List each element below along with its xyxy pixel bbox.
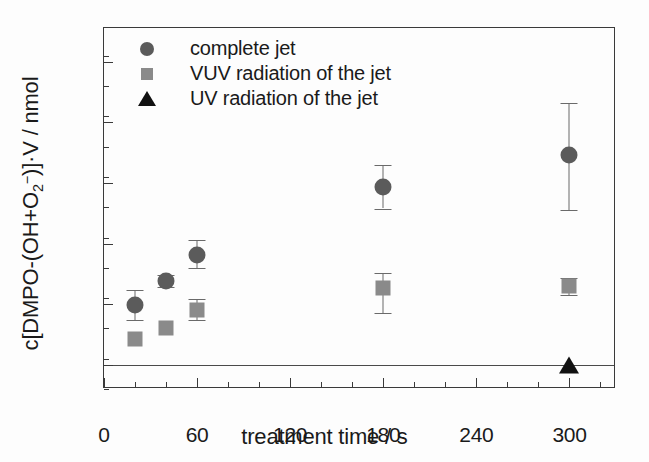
x-axis-minor-tick <box>135 382 136 387</box>
x-axis-tick-label: 300 <box>529 424 609 445</box>
error-bar-cap <box>189 240 206 241</box>
triangle-marker-icon <box>559 356 579 373</box>
error-bar-cap <box>127 290 144 291</box>
circle-marker-icon <box>158 273 175 290</box>
x-axis-minor-tick <box>166 382 167 387</box>
circle-marker-icon <box>130 42 164 56</box>
x-axis-minor-tick <box>507 382 508 387</box>
error-bar-cap <box>127 320 144 321</box>
y-axis-minor-tick <box>104 177 109 178</box>
data-point <box>189 246 206 263</box>
x-axis-tick-label: 0 <box>64 424 144 445</box>
y-axis-tick <box>104 62 113 63</box>
data-point <box>128 332 143 347</box>
y-axis-title-suffix: )]·V / nmol <box>18 77 43 176</box>
y-axis-minor-tick <box>104 389 109 390</box>
x-axis-tick <box>383 378 384 387</box>
legend-item-vuv: VUV radiation of the jet <box>130 61 460 86</box>
square-marker-icon <box>562 279 577 294</box>
y-axis-minor-tick <box>104 359 109 360</box>
error-bar-cap <box>561 210 578 211</box>
zero-reference-line <box>104 365 614 366</box>
y-axis-tick <box>104 304 113 305</box>
y-axis-tick <box>104 183 113 184</box>
data-point <box>559 356 579 373</box>
y-axis-minor-tick <box>104 86 109 87</box>
error-bar-cap <box>189 320 206 321</box>
legend-item-uv: UV radiation of the jet <box>130 86 460 111</box>
y-axis-minor-tick <box>104 56 109 57</box>
x-axis-minor-tick <box>414 382 415 387</box>
plot-frame: 0510152025060120180240300 complete jet V… <box>103 27 615 388</box>
data-point <box>376 281 391 296</box>
data-point <box>190 303 205 318</box>
y-axis-minor-tick <box>104 298 109 299</box>
y-axis-tick <box>104 244 113 245</box>
data-point <box>158 273 175 290</box>
y-axis-minor-tick <box>104 207 109 208</box>
chart-legend: complete jet VUV radiation of the jet UV… <box>130 36 460 111</box>
y-axis-tick <box>104 122 113 123</box>
triangle-marker-icon <box>130 91 164 106</box>
error-bar-cap <box>375 165 392 166</box>
error-bar-cap <box>561 103 578 104</box>
error-bar-cap <box>375 209 392 210</box>
legend-item-complete-jet: complete jet <box>130 36 460 61</box>
circle-marker-icon <box>375 178 392 195</box>
error-bar-cap <box>375 273 392 274</box>
x-axis-minor-tick <box>352 382 353 387</box>
circle-marker-icon <box>189 246 206 263</box>
x-axis-tick-label: 60 <box>157 424 237 445</box>
y-axis-title-subscript: 2 <box>30 184 46 192</box>
y-axis-minor-tick <box>104 116 109 117</box>
y-axis-minor-tick <box>104 268 109 269</box>
y-axis-tick <box>104 365 113 366</box>
square-marker-icon <box>159 321 174 336</box>
square-marker-icon <box>128 332 143 347</box>
x-axis-tick <box>569 378 570 387</box>
legend-label-complete-jet: complete jet <box>190 37 295 60</box>
y-axis-title-superscript: − <box>19 176 35 184</box>
data-point <box>562 279 577 294</box>
y-axis-minor-tick <box>104 328 109 329</box>
x-axis-minor-tick <box>445 382 446 387</box>
data-point <box>561 147 578 164</box>
x-axis-minor-tick <box>321 382 322 387</box>
x-axis-minor-tick <box>538 382 539 387</box>
error-bar-cap <box>189 299 206 300</box>
x-axis-tick-label: 120 <box>250 424 330 445</box>
data-point <box>127 297 144 314</box>
chart-figure: c[DMPO-(OH+O2−)]·V / nmol treatment time… <box>0 0 649 462</box>
square-marker-icon <box>190 303 205 318</box>
x-axis-tick <box>104 378 105 387</box>
legend-label-vuv: VUV radiation of the jet <box>190 62 391 85</box>
x-axis-minor-tick <box>259 382 260 387</box>
error-bar-cap <box>375 313 392 314</box>
x-axis-minor-tick <box>600 382 601 387</box>
y-axis-title-prefix: c[DMPO-(OH+O <box>18 192 43 350</box>
error-bar-cap <box>189 268 206 269</box>
error-bar-cap <box>561 295 578 296</box>
x-axis-tick <box>290 378 291 387</box>
x-axis-minor-tick <box>228 382 229 387</box>
square-marker-icon <box>130 68 164 80</box>
data-point <box>159 321 174 336</box>
x-axis-tick <box>476 378 477 387</box>
circle-marker-icon <box>561 147 578 164</box>
y-axis-title: c[DMPO-(OH+O2−)]·V / nmol <box>18 34 45 394</box>
legend-label-uv: UV radiation of the jet <box>190 87 378 110</box>
x-axis-tick-label: 180 <box>343 424 423 445</box>
y-axis-minor-tick <box>104 238 109 239</box>
square-marker-icon <box>376 281 391 296</box>
y-axis-minor-tick <box>104 147 109 148</box>
x-axis-tick <box>197 378 198 387</box>
data-point <box>375 178 392 195</box>
x-axis-tick-label: 240 <box>436 424 516 445</box>
circle-marker-icon <box>127 297 144 314</box>
